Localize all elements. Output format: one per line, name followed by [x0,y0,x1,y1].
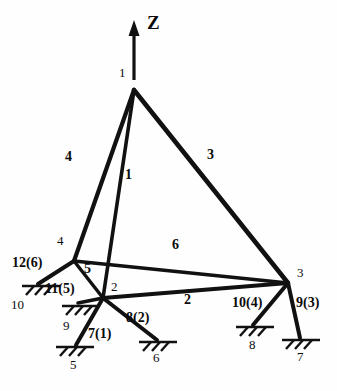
support-label-10: 10 [11,298,24,311]
ground-symbol-5 [56,347,94,356]
axis-label-z: Z [147,13,160,32]
member-label-3: 3 [207,148,214,162]
member-label-2: 2 [184,293,191,307]
ground-symbol-8 [236,327,274,336]
truss-members [74,90,288,298]
dof-label-8-2: 8(2) [126,311,149,325]
truss-diagram-figure: Z 1 2 3 4 1 2 3 4 5 6 5 6 7 8 9 10 7(1) … [0,0,337,391]
node-label-2: 2 [111,280,118,293]
ground-symbol-7 [282,340,320,349]
support-label-9: 9 [63,319,70,332]
dof-label-9-3: 9(3) [296,296,319,310]
member-label-5: 5 [84,262,91,276]
node-label-1: 1 [119,66,126,79]
node-label-3: 3 [297,266,304,279]
member-label-1: 1 [125,168,132,182]
support-label-5: 5 [70,358,77,371]
member-label-6: 6 [172,238,179,252]
z-axis-arrow [129,20,140,80]
dof-label-11-5: 11(5) [45,282,75,296]
truss-diagram-canvas [0,0,337,391]
support-label-7: 7 [297,350,304,363]
member-label-4: 4 [65,150,72,164]
support-leg-7 [288,283,300,338]
node-label-4: 4 [57,234,64,247]
support-label-8: 8 [249,338,256,351]
dof-label-7-1: 7(1) [88,327,111,341]
dof-label-12-6: 12(6) [12,256,42,270]
member-3 [134,90,288,283]
support-label-6: 6 [153,351,160,364]
dof-label-10-4: 10(4) [232,296,262,310]
